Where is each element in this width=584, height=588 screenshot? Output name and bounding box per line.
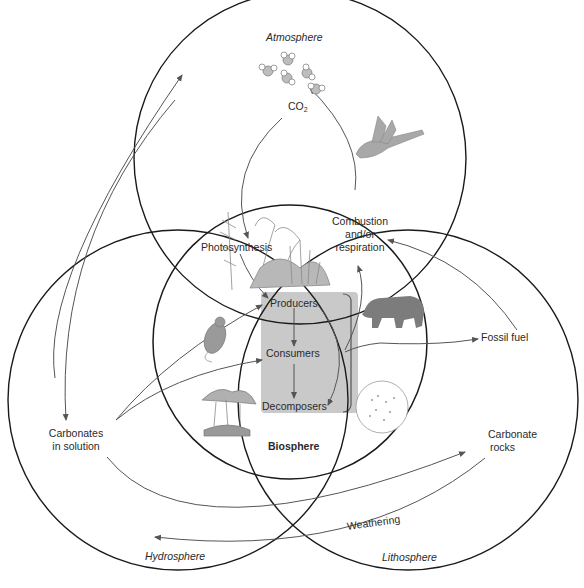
carbonates-line1: Carbonates (46, 427, 106, 440)
carbonates-line2: in solution (46, 440, 106, 453)
biosphere-label: Biosphere (268, 440, 319, 453)
co2-main: CO (288, 100, 304, 112)
microbes-illustration (356, 381, 408, 433)
combustion-line3: respiration (325, 241, 395, 254)
combustion-line2: and/or (325, 228, 395, 241)
co2-molecules-illustration (259, 52, 325, 94)
fossil-fuel-label: Fossil fuel (481, 331, 528, 344)
hydrosphere-label: Hydrosphere (145, 550, 205, 563)
combustion-line1: Combustion (325, 215, 395, 228)
carbon-cycle-diagram (0, 0, 584, 588)
carbonate-rocks-line1: Carbonate (488, 428, 537, 441)
carbonate-rocks-label: Carbonate rocks (488, 428, 537, 454)
bird-illustration (356, 116, 424, 158)
producers-label: Producers (270, 297, 318, 310)
carbonates-in-solution-label: Carbonates in solution (46, 427, 106, 453)
decomposers-label: Decomposers (262, 400, 327, 413)
co2-subscript: 2 (304, 106, 308, 113)
photosynthesis-label: Photosynthesis (201, 241, 272, 254)
consumers-label: Consumers (266, 347, 320, 360)
co2-label: CO2 (288, 100, 308, 116)
carbonate-rocks-line2: rocks (488, 441, 537, 454)
combustion-label: Combustion and/or respiration (325, 215, 395, 254)
arrow-combustion-to-co2 (310, 88, 356, 190)
atmosphere-label: Atmosphere (266, 31, 323, 44)
lithosphere-label: Lithosphere (382, 551, 437, 564)
